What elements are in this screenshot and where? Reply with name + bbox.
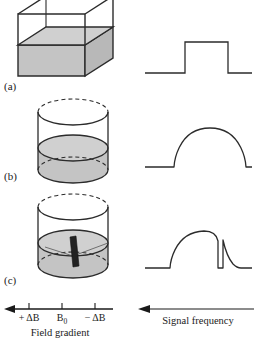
trace-b-path	[145, 128, 252, 167]
trace-a-path	[145, 42, 252, 73]
panel-label-a: (a)	[4, 80, 17, 93]
figure-canvas: (a) (b)	[0, 0, 258, 345]
dome-with-spike-trace	[145, 231, 252, 268]
rectangular-pulse-trace	[145, 42, 252, 73]
panel-label-b: (b)	[4, 170, 17, 183]
field-gradient-caption: Field gradient	[31, 327, 90, 338]
rectangular-box-sample	[18, 0, 113, 76]
trace-c-path	[145, 231, 252, 268]
panel-label-c: (c)	[4, 274, 17, 287]
cylinder-sample	[38, 99, 108, 183]
b0-subscript: 0	[63, 317, 67, 326]
signal-frequency-axis: Signal frequency	[138, 305, 254, 326]
signal-frequency-caption: Signal frequency	[162, 315, 234, 326]
signal-frequency-arrow-icon	[138, 305, 150, 313]
box-upper-right-edge	[85, 0, 113, 14]
cylinder-c-top-front-arc	[38, 207, 108, 220]
cylinder-c-top-rear-arc	[38, 194, 108, 207]
box-top-rim	[18, 0, 113, 14]
field-gradient-axis: + ΔB B0 − ΔB Field gradient	[4, 303, 113, 338]
cylinder-b-top-front-arc	[38, 112, 108, 125]
cylinder-b-top-rear-arc	[38, 99, 108, 112]
field-gradient-tick-label-minus: − ΔB	[85, 312, 106, 323]
cylinder-b-liquid-surface	[38, 135, 108, 161]
dome-trace	[145, 128, 252, 167]
field-gradient-tick-label-plus: + ΔB	[19, 312, 40, 323]
nmr-lineshape-figure: (a) (b)	[0, 0, 258, 345]
field-gradient-tick-label-b0: B0	[57, 312, 68, 326]
field-gradient-arrow-icon	[4, 305, 15, 313]
cylinder-with-rod-sample	[38, 194, 108, 278]
box-front-lower-face	[18, 45, 85, 76]
